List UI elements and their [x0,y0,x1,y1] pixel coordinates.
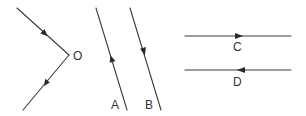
group-b: B [130,8,161,112]
label-d: D [233,75,242,89]
arrow-away-from-o-icon [44,79,50,86]
line-b [130,8,161,110]
group-a: A [96,8,127,112]
label-c: C [233,40,242,54]
arrow-up-icon [110,56,116,63]
arrow-right-icon [235,33,243,39]
label-b: B [145,98,153,112]
group-o: O [17,8,82,110]
label-a: A [111,98,119,112]
label-o: O [73,49,82,63]
arrow-left-icon [237,67,245,73]
group-c: C [185,33,291,54]
group-d: D [185,67,291,89]
arrow-down-icon [140,47,146,56]
ray-diagram: O A B C D [0,0,306,116]
